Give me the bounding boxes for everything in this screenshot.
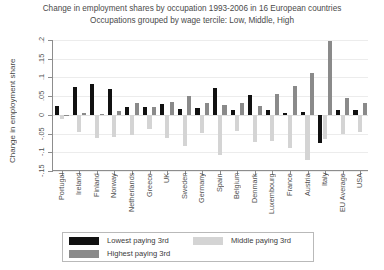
chart-title: Change in employment shares by occupatio…: [0, 3, 384, 15]
bar: [205, 103, 209, 115]
bar: [248, 95, 252, 115]
bar-group: [281, 40, 299, 171]
bar: [353, 110, 357, 115]
y-axis-tick-label: .2: [37, 26, 46, 54]
bar: [160, 104, 164, 114]
bar: [323, 115, 327, 139]
bar: [152, 107, 156, 114]
x-axis-category-label: France: [285, 173, 295, 225]
bar-group: [351, 40, 369, 171]
legend-label-middle: Middle paying 3rd: [231, 236, 291, 245]
x-axis-category-label: Denmark: [250, 173, 260, 225]
bar-group: [193, 40, 211, 171]
legend-item-lowest: Lowest paying 3rd: [69, 236, 169, 245]
bar: [270, 115, 274, 141]
bar: [258, 106, 262, 115]
bar: [95, 115, 99, 138]
bar: [130, 115, 134, 136]
bar: [165, 115, 169, 138]
bar: [183, 115, 187, 146]
legend-swatch-middle: [193, 237, 223, 245]
bar: [358, 115, 362, 133]
bar: [310, 73, 314, 115]
bar: [345, 98, 349, 115]
bar: [187, 96, 191, 115]
bar: [125, 107, 129, 114]
x-axis-category-label: Belgium: [232, 173, 242, 225]
bar: [235, 115, 239, 131]
bar: [283, 113, 287, 115]
bar: [108, 89, 112, 114]
bar: [178, 109, 182, 115]
bar: [200, 115, 204, 133]
x-axis-category-label: UK: [162, 173, 172, 225]
bar: [60, 115, 64, 119]
bar: [341, 115, 345, 134]
bar-group: [246, 40, 264, 171]
bar-group: [88, 40, 106, 171]
bar: [73, 87, 77, 115]
x-axis-category-label: Italy: [320, 173, 330, 225]
bar: [135, 103, 139, 115]
bar: [222, 105, 226, 115]
bar: [77, 115, 81, 132]
bar: [112, 115, 116, 137]
bar: [275, 94, 279, 115]
x-axis-category-label: Norway: [109, 173, 119, 225]
bar: [293, 86, 297, 114]
x-axis-category-label: EU Average: [338, 173, 348, 225]
bar: [218, 115, 222, 155]
x-axis-category-label: Sweden: [180, 173, 190, 225]
legend-swatch-highest: [69, 250, 99, 258]
x-axis-category-label: Spain: [215, 173, 225, 225]
bar-group: [123, 40, 141, 171]
bar: [288, 115, 292, 148]
bar: [253, 115, 257, 142]
bar: [240, 103, 244, 115]
bar-group: [211, 40, 229, 171]
bar: [301, 112, 305, 115]
x-axis-category-label: Austria: [303, 173, 313, 225]
bar: [82, 113, 86, 114]
y-axis-tick: [48, 171, 53, 172]
bar-group: [176, 40, 194, 171]
legend-label-lowest: Lowest paying 3rd: [107, 236, 169, 245]
bar: [100, 114, 104, 115]
x-axis-category-label: Ireland: [74, 173, 84, 225]
chart-subtitle: Occupations grouped by wage tercile: Low…: [0, 15, 384, 27]
x-axis-category-label: Luxembourg: [267, 173, 277, 225]
chart-figure: Change in employment shares by occupatio…: [0, 0, 384, 270]
gridline: [53, 171, 368, 172]
bar-group: [229, 40, 247, 171]
bar-group: [299, 40, 317, 171]
chart-title-block: Change in employment shares by occupatio…: [0, 3, 384, 27]
bar: [147, 115, 151, 129]
bar: [55, 106, 59, 115]
bar: [266, 110, 270, 114]
legend-label-highest: Highest paying 3rd: [107, 249, 170, 258]
bar: [90, 84, 94, 115]
bar: [117, 111, 121, 115]
legend-item-middle: Middle paying 3rd: [193, 236, 291, 245]
bar: [195, 108, 199, 115]
bar-group: [53, 40, 71, 171]
bar: [143, 107, 147, 115]
bar-group: [264, 40, 282, 171]
legend-swatch-lowest: [69, 237, 99, 245]
bar-group: [158, 40, 176, 171]
bar-group: [106, 40, 124, 171]
x-axis-category-label: Germany: [197, 173, 207, 225]
legend-item-highest: Highest paying 3rd: [69, 249, 170, 258]
bar: [64, 115, 68, 116]
bar: [305, 115, 309, 160]
x-axis-category-label: Greece: [145, 173, 155, 225]
bar: [318, 115, 322, 143]
chart-legend: Lowest paying 3rd Middle paying 3rd High…: [62, 232, 314, 262]
x-axis-category-label: Portugal: [57, 173, 67, 225]
bar: [328, 41, 332, 115]
bar: [363, 103, 367, 115]
y-axis-title: Change in employment share: [8, 52, 20, 170]
bar-group: [141, 40, 159, 171]
bar-group: [316, 40, 334, 171]
plot-area: -.15-.1-.050.05.1.15.2PortugalIrelandFin…: [52, 40, 368, 171]
